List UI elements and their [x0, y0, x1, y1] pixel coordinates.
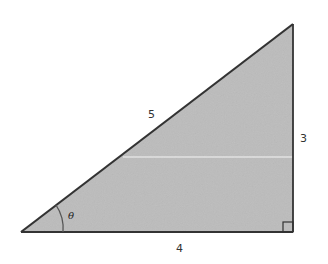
- hypotenuse-label: 5: [148, 108, 155, 121]
- adjacent-label: 4: [176, 242, 183, 255]
- angle-label: θ: [68, 210, 74, 221]
- triangle-diagram: 5 3 4 θ: [0, 0, 328, 264]
- opposite-label: 3: [300, 132, 307, 145]
